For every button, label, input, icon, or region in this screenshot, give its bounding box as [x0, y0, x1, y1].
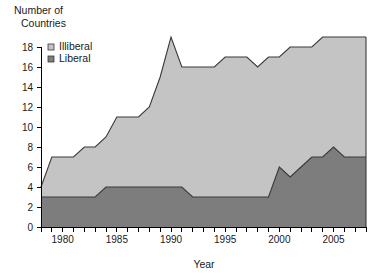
legend-swatch-illiberal [48, 44, 54, 50]
stacked-area-chart: 024681012141618 198019851990199520002005… [0, 0, 378, 276]
x-tick-label: 1985 [106, 234, 129, 245]
y-tick-label: 14 [22, 82, 34, 93]
y-tick-label: 12 [22, 102, 34, 113]
legend-label-illiberal: Illiberal [59, 40, 92, 52]
x-tick-label: 2005 [322, 234, 345, 245]
x-tick-label: 2000 [268, 234, 291, 245]
x-tick-label: 1990 [160, 234, 183, 245]
y-tick-label: 6 [27, 162, 33, 173]
x-axis-title: Year [193, 258, 215, 270]
x-tick-label: 1995 [214, 234, 237, 245]
chart-container: 024681012141618 198019851990199520002005… [0, 0, 378, 276]
y-tick-label: 0 [27, 222, 33, 233]
y-tick-label: 8 [27, 142, 33, 153]
y-tick-label: 18 [22, 42, 34, 53]
y-tick-label: 16 [22, 62, 34, 73]
legend-swatch-liberal [48, 56, 54, 62]
y-tick-label: 10 [22, 122, 34, 133]
y-axis-title-line2: Countries [21, 17, 66, 29]
y-axis-title-line1: Number of [14, 4, 63, 16]
y-tick-label: 4 [27, 182, 33, 193]
y-tick-label: 2 [27, 202, 33, 213]
x-tick-label: 1980 [52, 234, 75, 245]
legend-label-liberal: Liberal [59, 52, 91, 64]
